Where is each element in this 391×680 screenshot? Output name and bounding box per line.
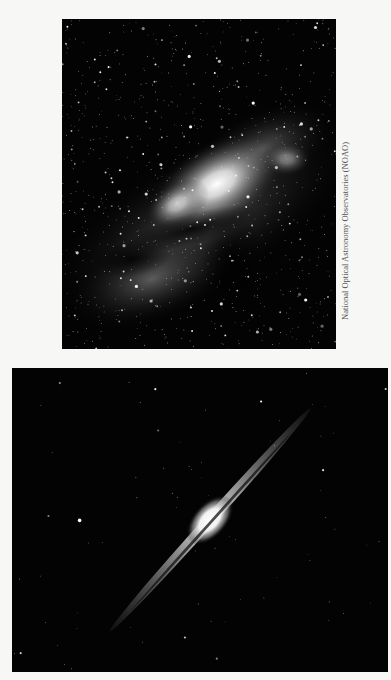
edge-on-galaxy-photo <box>12 368 388 672</box>
milky-way-photo <box>62 19 336 349</box>
milky-way-image <box>62 19 336 349</box>
edge-on-galaxy-image <box>12 368 388 672</box>
image-credit: National Optical Astronomy Observatories… <box>340 142 350 320</box>
